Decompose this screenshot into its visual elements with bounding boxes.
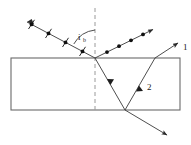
angle-of-incidence-label: i xyxy=(78,32,81,42)
angle-of-incidence-subscript: b xyxy=(83,37,86,43)
transmitted-ray-bottom xyxy=(125,110,167,135)
optics-diagram: i b 1 2 xyxy=(0,0,191,145)
ray-label-one: 1 xyxy=(183,42,188,52)
optics-diagram-canvas: i b 1 2 xyxy=(0,0,191,145)
exit-ray-top xyxy=(155,43,178,58)
ray-label-two: 2 xyxy=(147,82,152,92)
reflected-ray xyxy=(95,30,153,59)
